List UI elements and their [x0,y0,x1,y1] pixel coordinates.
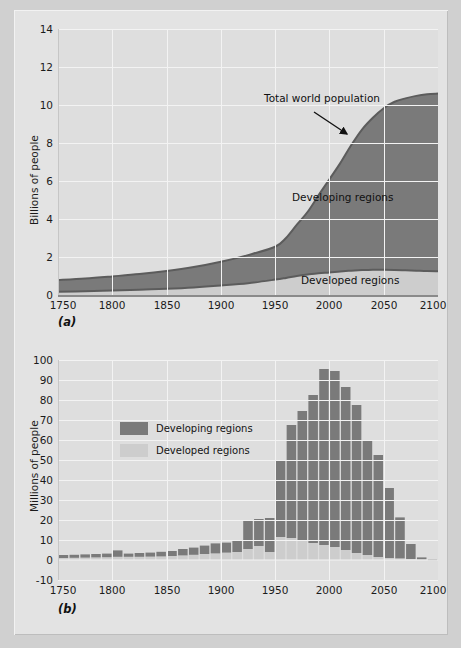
vgridline [329,29,330,295]
bar-developing [59,555,69,558]
bar-developed [341,550,351,560]
vgridline [384,29,385,295]
bar-group [167,551,177,560]
bar-developed [265,552,275,560]
bar-developed [232,552,242,560]
bar-developing [287,425,297,538]
gridline [58,440,438,441]
gridline [58,29,438,30]
panel-b-ytick: 70 [27,414,53,426]
bar-developing [265,518,275,552]
bar-developing [167,551,177,556]
bar-group [200,546,210,560]
bar-developing [374,455,384,557]
bar-group [265,518,275,560]
panel-a-xtick: 1950 [262,299,289,311]
panel-a-ytick: 2 [31,251,53,263]
panel-a-xtick: 1850 [154,299,181,311]
bar-developing [124,554,134,557]
panel-b-ytick: 60 [27,434,53,446]
bar-developing [319,369,329,545]
panel-b-ytick: 30 [27,494,53,506]
vgridline [112,29,113,295]
bar-developed [254,546,264,560]
panel-b: Millions of people 100 90 80 70 60 50 40… [14,340,448,635]
vgridline [112,360,113,580]
bar-developed [243,549,253,560]
panel-b-ytick: 40 [27,474,53,486]
panel-b-xtick: 2000 [316,584,343,596]
vgridline [329,360,330,580]
vgridline [221,360,222,580]
panel-b-ytick: 20 [27,514,53,526]
annotation-arrow-icon [311,109,371,141]
bar-group [384,488,394,560]
panel-a-label-developed: Developed regions [301,274,399,286]
gridline [58,400,438,401]
gridline [58,181,438,182]
panel-a-ytick: 12 [31,61,53,73]
bar-group [80,554,90,560]
panel-b-ytick: 100 [27,354,53,366]
gridline [58,143,438,144]
bar-developing [243,521,253,549]
legend-swatch-developed [120,444,148,457]
bar-developing [135,553,145,557]
panel-b-xtick: 1750 [50,584,77,596]
bar-developing [200,546,210,554]
bar-group [211,543,221,560]
panel-a-tag: (a) [58,315,76,329]
bar-group [276,460,286,560]
panel-a-xtick: 2050 [371,299,398,311]
panel-a-annotation-total: Total world population [264,92,380,104]
bar-developed [352,553,362,560]
gridline [58,360,438,361]
bar-developing [395,517,405,558]
bar-developing [276,460,286,537]
panel-b-ytick: 0 [27,554,53,566]
panel-a-plot-area: Developing regions Developed regions Tot… [58,29,438,295]
bar-developed [200,554,210,560]
bar-developing [91,554,101,557]
bar-developed [189,555,199,560]
vgridline [221,29,222,295]
bar-developing [417,557,427,559]
bar-group [113,550,123,560]
bar-developed [222,553,232,560]
panel-a-ytick: 14 [31,23,53,35]
panel-a: Billions of people 14 12 10 8 6 4 2 0 [14,10,448,335]
gridline [58,480,438,481]
bar-developing [80,554,90,557]
bar-developing [70,555,80,558]
gridline [58,460,438,461]
panel-a-xtick: 2100 [420,299,447,311]
panel-b-ytick: 10 [27,534,53,546]
panel-b-xtick: 1850 [154,584,181,596]
bar-developing [254,519,264,546]
bar-group [91,554,101,560]
panel-a-label-developing: Developing regions [292,191,393,203]
figure-container: Billions of people 14 12 10 8 6 4 2 0 [0,0,461,648]
bar-group [395,517,405,560]
panel-a-ytick: 4 [31,213,53,225]
gridline [58,520,438,521]
panel-a-x-axis [58,295,438,297]
panel-b-ytick: 90 [27,374,53,386]
bar-developing [156,552,166,557]
bar-developed [363,555,373,560]
bar-developing [146,553,156,557]
panel-b-xtick: 2100 [420,584,447,596]
bar-developing [406,544,416,559]
gridline [58,500,438,501]
bar-group [178,549,188,560]
gridline [58,257,438,258]
panel-a-ytick: 6 [31,175,53,187]
bar-developed [319,545,329,560]
gridline [58,380,438,381]
bar-developed [287,538,297,560]
bar-group [102,554,112,560]
figure-board: Billions of people 14 12 10 8 6 4 2 0 [14,10,448,635]
bar-developing [211,543,221,553]
panel-b-plot-area: Developing regions Developed regions [58,360,438,580]
panel-a-y-axis [58,29,59,295]
